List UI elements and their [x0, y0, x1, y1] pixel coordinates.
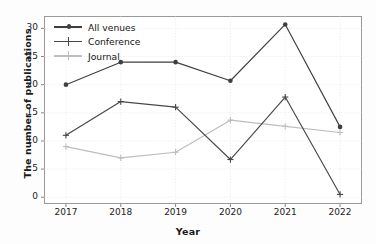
legend-swatch-plus-icon	[54, 50, 82, 62]
x-tick-label: 2017	[41, 207, 91, 217]
legend-item: All venues	[54, 20, 141, 35]
x-tick-label: 2018	[96, 207, 146, 217]
y-tick-label: 5	[4, 163, 38, 173]
legend-swatch-plus-icon	[54, 36, 82, 48]
chart-figure: The number of publications Year 05101520…	[0, 0, 376, 244]
y-tick-label: 0	[4, 191, 38, 201]
y-tick-label: 10	[4, 135, 38, 145]
chart-legend: All venuesConferenceJournal	[50, 18, 145, 66]
legend-label: Conference	[88, 37, 141, 46]
legend-swatch-circle-icon	[54, 21, 82, 33]
y-tick-label: 30	[4, 22, 38, 32]
x-tick-label: 2021	[260, 207, 310, 217]
series-conference	[63, 94, 343, 198]
y-tick-label: 15	[4, 107, 38, 117]
x-tick-label: 2019	[151, 207, 201, 217]
y-tick-label: 20	[4, 79, 38, 89]
legend-label: Journal	[88, 52, 120, 61]
legend-label: All venues	[88, 23, 136, 32]
x-tick-label: 2020	[205, 207, 255, 217]
legend-item: Journal	[54, 49, 141, 64]
series-journal	[63, 117, 343, 161]
y-tick-label: 25	[4, 51, 38, 61]
legend-item: Conference	[54, 35, 141, 50]
x-tick-label: 2022	[315, 207, 365, 217]
